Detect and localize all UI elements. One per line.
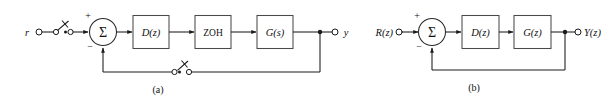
input-terminal-rz [396,29,402,35]
sigma-symbol: Σ [99,25,107,40]
sum-minus-sign: − [416,41,422,52]
sum-minus-sign: − [87,41,93,52]
feedback-switch-pivot-dot [178,71,181,74]
output-terminal-y [332,29,338,35]
block-diagram-figure: r Σ + − [0,0,614,103]
output-label-yz: Y(z) [584,27,601,39]
panel-b: R(z) Σ + − D(z) [375,10,602,94]
block-controller-dz: D(z) [462,16,499,49]
panel-caption-a: (a) [152,84,163,96]
summing-junction: Σ + − [85,10,116,52]
sigma-symbol: Σ [428,25,436,40]
panel-a: r Σ + − [25,10,349,96]
block-controller-dz-label: D(z) [141,27,161,39]
switch-contact-right [68,29,73,34]
figure-root: r Σ + − [0,0,614,103]
sum-plus-sign: + [85,10,91,21]
input-label-r: r [25,27,30,38]
block-zoh-label: ZOH [203,28,223,38]
block-controller-dz-label: D(z) [470,27,490,39]
sum-plus-sign: + [414,10,420,21]
block-zoh: ZOH [195,16,231,49]
feedback-switch-contact-right [186,69,191,74]
block-plant-gz-label: G(z) [523,27,542,39]
input-terminal-r [36,29,42,35]
panel-caption-b: (b) [468,82,480,94]
feedback-sampler-switch[interactable] [172,61,192,75]
feedback-switch-contact-left [172,69,177,74]
switch-pivot-dot [64,31,67,34]
block-plant-gs-label: G(s) [266,27,285,39]
input-label-rz: R(z) [375,27,394,39]
block-plant-gs: G(s) [257,16,293,49]
block-controller-dz: D(z) [133,16,169,49]
input-sampler-switch[interactable] [53,21,73,35]
summing-junction: Σ + − [414,10,445,52]
output-terminal-yz [575,29,581,35]
output-label-y: y [343,27,349,38]
block-plant-gz: G(z) [514,16,551,49]
